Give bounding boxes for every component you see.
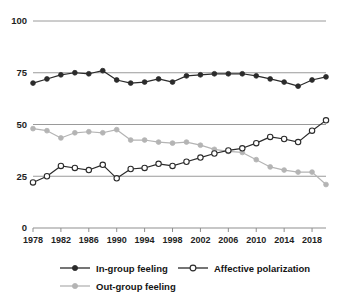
data-series-layer	[30, 68, 328, 187]
data-point	[100, 68, 105, 73]
data-point	[72, 70, 77, 75]
series-in-group-feeling	[31, 68, 329, 88]
y-tick-label-50: 50	[16, 119, 27, 130]
data-point	[240, 71, 245, 76]
data-point	[170, 80, 175, 85]
y-tick-label-100: 100	[11, 15, 27, 26]
data-point	[142, 165, 147, 170]
data-point	[296, 170, 301, 175]
data-point	[128, 166, 133, 171]
data-point	[114, 127, 119, 132]
x-tick-label-1990: 1990	[107, 235, 127, 245]
legend-label: Out-group feeling	[96, 281, 176, 292]
data-point	[324, 182, 329, 187]
x-tick-label-1986: 1986	[79, 235, 99, 245]
data-point	[268, 165, 273, 170]
data-point	[254, 73, 259, 78]
line-chart: 1007550250 19781982198619901994199820022…	[0, 0, 347, 303]
data-point	[295, 139, 300, 144]
data-point	[184, 159, 189, 164]
data-point	[198, 72, 203, 77]
x-tick-label-1978: 1978	[23, 235, 43, 245]
data-point	[254, 140, 259, 145]
data-point	[296, 84, 301, 89]
series-out-group-feeling	[31, 126, 329, 187]
data-point	[254, 157, 259, 162]
data-point	[45, 77, 50, 82]
data-point	[268, 77, 273, 82]
legend-label: Affective polarization	[214, 263, 310, 274]
data-point	[226, 71, 231, 76]
x-tick-label-2014: 2014	[274, 235, 294, 245]
data-point	[114, 78, 119, 83]
data-point	[44, 174, 49, 179]
data-point	[142, 80, 147, 85]
data-point	[86, 71, 91, 76]
data-point	[156, 77, 161, 82]
data-point	[226, 148, 231, 153]
y-tick-label-25: 25	[16, 171, 27, 182]
data-point	[309, 128, 314, 133]
legend-item-out-group-feeling[interactable]: Out-group feeling	[60, 281, 176, 292]
legend-item-in-group-feeling[interactable]: In-group feeling	[60, 263, 168, 274]
y-axis-tick-labels: 1007550250	[11, 15, 28, 233]
data-point	[58, 163, 63, 168]
chart-legend: In-group feelingAffective polarizationOu…	[60, 263, 310, 292]
data-point	[170, 141, 175, 146]
x-axis-tick-labels: 1978198219861990199419982002200620102014…	[23, 235, 322, 245]
data-point	[212, 71, 217, 76]
data-point	[156, 140, 161, 145]
data-point	[156, 161, 161, 166]
x-tick-label-1994: 1994	[135, 235, 155, 245]
x-tick-label-2006: 2006	[218, 235, 238, 245]
x-tick-label-2010: 2010	[246, 235, 266, 245]
data-point	[31, 81, 36, 86]
data-point	[282, 80, 287, 85]
series-affective-polarization	[30, 118, 328, 186]
data-point	[310, 78, 315, 83]
data-point	[170, 163, 175, 168]
data-point	[31, 126, 36, 131]
data-point	[45, 128, 50, 133]
data-point	[240, 146, 245, 151]
data-point	[72, 165, 77, 170]
x-tick-label-1982: 1982	[51, 235, 71, 245]
legend-label: In-group feeling	[96, 263, 168, 274]
data-point	[184, 73, 189, 78]
data-point	[86, 167, 91, 172]
data-point	[324, 74, 329, 79]
data-point	[128, 138, 133, 143]
legend-marker	[72, 265, 77, 270]
x-tick-label-2002: 2002	[190, 235, 210, 245]
y-tick-label-0: 0	[22, 222, 27, 233]
data-point	[72, 130, 77, 135]
data-point	[128, 81, 133, 86]
data-point	[184, 140, 189, 145]
data-point	[114, 176, 119, 181]
series-line	[33, 120, 326, 182]
data-point	[281, 136, 286, 141]
x-tick-label-2018: 2018	[302, 235, 322, 245]
data-point	[212, 151, 217, 156]
chart-plot-area: 1007550250 19781982198619901994199820022…	[0, 0, 347, 303]
data-point	[100, 130, 105, 135]
data-point	[100, 162, 105, 167]
x-axis	[33, 228, 326, 232]
data-point	[310, 170, 315, 175]
data-point	[59, 72, 64, 77]
data-point	[323, 118, 328, 123]
data-point	[198, 143, 203, 148]
data-point	[86, 129, 91, 134]
data-point	[198, 155, 203, 160]
data-point	[142, 138, 147, 143]
y-tick-label-75: 75	[16, 67, 27, 78]
data-point	[30, 180, 35, 185]
data-point	[59, 136, 64, 141]
gridlines	[33, 21, 326, 176]
data-point	[267, 134, 272, 139]
x-tick-label-1998: 1998	[163, 235, 183, 245]
legend-item-affective-polarization[interactable]: Affective polarization	[178, 263, 310, 274]
legend-marker	[190, 265, 196, 271]
legend-marker	[72, 283, 77, 288]
data-point	[282, 168, 287, 173]
